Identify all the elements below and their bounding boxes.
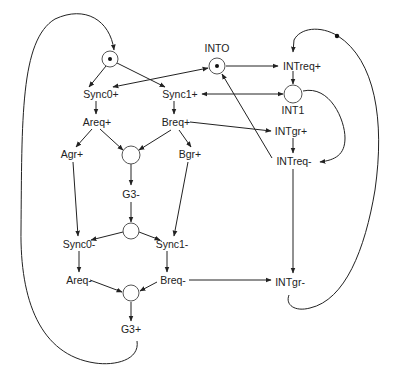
transition-sync1p: Sync1+ (162, 88, 197, 100)
transition-intgrm: INTgr- (275, 276, 305, 288)
place-int1 (284, 85, 302, 103)
arcs (21, 14, 379, 364)
places (102, 51, 302, 301)
arc-areqp-mid (100, 129, 123, 150)
transition-breqp: Breq+ (162, 116, 190, 128)
arc-areqm-bot (90, 280, 122, 292)
transition-breqm: Breq- (160, 274, 186, 286)
arc-breqp-mid (139, 130, 171, 150)
arc-int1-to-intreqm (303, 90, 345, 162)
transition-areqp: Areq+ (83, 116, 111, 128)
token-into (215, 64, 219, 68)
transition-g3m: G3- (122, 188, 140, 200)
place-mid2 (123, 223, 139, 239)
transition-sync0m: Sync0- (63, 238, 96, 250)
labels: INTO INT1 Sync0+ Sync1+ Areq+ Breq+ Agr+… (61, 42, 321, 335)
arc-breqp-bgrp (179, 130, 191, 147)
place-bot (123, 285, 139, 301)
arc-place2-sync0m (91, 232, 123, 240)
transition-areqm: Areq- (66, 274, 92, 286)
transition-agrp: Agr+ (61, 148, 83, 160)
label-int1: INT1 (282, 104, 305, 116)
petri-net-diagram: INTO INT1 Sync0+ Sync1+ Areq+ Breq+ Agr+… (0, 0, 395, 382)
implicit-place-token (335, 34, 339, 38)
arc-top-to-sync1p (117, 63, 165, 87)
label-into: INTO (205, 42, 230, 54)
arc-g3p-to-top-place (21, 14, 137, 364)
arc-top-to-sync0p (89, 66, 106, 87)
transition-bgrp: Bgr+ (179, 148, 201, 160)
transition-g3p: G3+ (121, 323, 141, 335)
transition-intreqm: INTreq- (276, 155, 312, 167)
transition-intgrp: INTgr+ (275, 125, 307, 137)
place-mid1 (122, 146, 140, 164)
arc-sync0p-into (113, 68, 208, 87)
transition-sync1m: Sync1- (156, 238, 189, 250)
arc-areqp-agrp (76, 129, 92, 147)
arc-agrp-sync0m (73, 162, 78, 236)
arc-breqp-intgrp (190, 122, 271, 131)
arc-breqm-bot (140, 282, 157, 291)
arc-bgrp-sync1m (174, 162, 188, 236)
arc-intreqm-into (222, 74, 272, 158)
token-top (108, 57, 112, 61)
diagram-svg: INTO INT1 Sync0+ Sync1+ Areq+ Breq+ Agr+… (0, 0, 395, 382)
transition-sync0p: Sync0+ (83, 88, 118, 100)
transition-intreqp: INTreq+ (283, 60, 321, 72)
